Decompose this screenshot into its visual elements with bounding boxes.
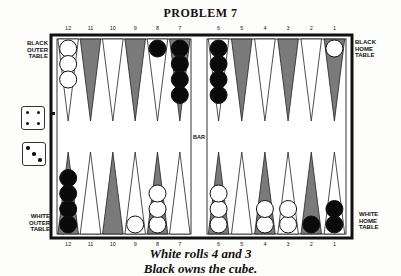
point-number-top: 8: [156, 25, 159, 31]
point-number-top: 12: [65, 25, 71, 31]
point-number-top: 9: [134, 25, 137, 31]
point-number-top: 10: [110, 25, 116, 31]
white-checker: [149, 185, 166, 202]
white-checker: [210, 216, 227, 233]
white-checker: [256, 216, 273, 233]
point-number-top: 4: [263, 25, 266, 31]
black-checker: [210, 40, 227, 57]
bar-label: BAR: [193, 134, 205, 140]
die-pip: [26, 146, 30, 150]
die-pip: [38, 158, 42, 162]
point-number-top: 6: [217, 25, 220, 31]
white-checker: [256, 201, 273, 218]
die-pip: [26, 111, 30, 115]
black-checker: [60, 170, 77, 187]
black-checker: [171, 71, 188, 88]
black-checker: [303, 216, 320, 233]
die-pip: [26, 122, 30, 126]
caption-line-1: White rolls 4 and 3: [0, 246, 401, 262]
black-checker: [171, 87, 188, 104]
white-checker: [60, 40, 77, 57]
white-checker: [210, 201, 227, 218]
black-checker: [326, 216, 343, 233]
die-1: [21, 106, 45, 130]
black-checker: [326, 201, 343, 218]
die-pip: [37, 111, 41, 115]
white-checker: [60, 71, 77, 88]
white-checker: [210, 185, 227, 202]
black-checker: [60, 216, 77, 233]
point-number-top: 5: [240, 25, 243, 31]
die-pip: [37, 122, 41, 126]
white-checker: [280, 201, 297, 218]
white-checker: [60, 56, 77, 73]
point-number-top: 2: [310, 25, 313, 31]
white-checker: [149, 201, 166, 218]
white-checker: [127, 216, 144, 233]
die-pip: [32, 152, 36, 156]
cube-position-mark: [52, 112, 55, 115]
white-checker: [280, 216, 297, 233]
black-checker: [210, 87, 227, 104]
black-checker: [60, 185, 77, 202]
black-checker: [171, 56, 188, 73]
point-number-top: 3: [287, 25, 290, 31]
white-checker: [326, 40, 343, 57]
point-number-top: 1: [333, 25, 336, 31]
black-checker: [210, 56, 227, 73]
black-checker: [210, 71, 227, 88]
white-checker: [149, 216, 166, 233]
black-checker: [60, 201, 77, 218]
die-2: [22, 142, 46, 166]
black-checker: [149, 40, 166, 57]
point-number-top: 7: [178, 25, 181, 31]
caption-line-2: Black owns the cube.: [0, 261, 401, 276]
point-number-top: 11: [88, 25, 94, 31]
black-checker: [171, 40, 188, 57]
